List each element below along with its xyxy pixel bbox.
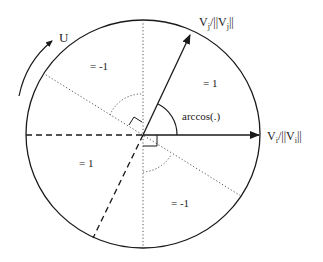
- vector-j-label: Vj/||Vj||: [199, 15, 234, 31]
- hypersphere-diagram: U = -1 = 1 = 1 = -1 arccos(.) Vj/||Vj|| …: [0, 0, 323, 262]
- angle-label: arccos(.): [182, 110, 221, 123]
- angle-arc: [158, 104, 177, 135]
- dotted-arc-lower: [143, 155, 171, 172]
- right-angle-marker-lower: [143, 135, 157, 146]
- rotation-label: U: [59, 30, 69, 45]
- right-angle-marker-upper: [129, 117, 142, 125]
- region-upper-left-label: = -1: [90, 60, 108, 72]
- dotted-arc-upper: [110, 94, 143, 115]
- region-lower-right-label: = -1: [171, 197, 189, 209]
- dashed-negative-vj-line: [93, 135, 143, 238]
- region-upper-right-label: = 1: [203, 77, 217, 89]
- region-lower-left-label: = 1: [79, 157, 93, 169]
- vector-i-label: Vi/||Vi||: [267, 129, 302, 145]
